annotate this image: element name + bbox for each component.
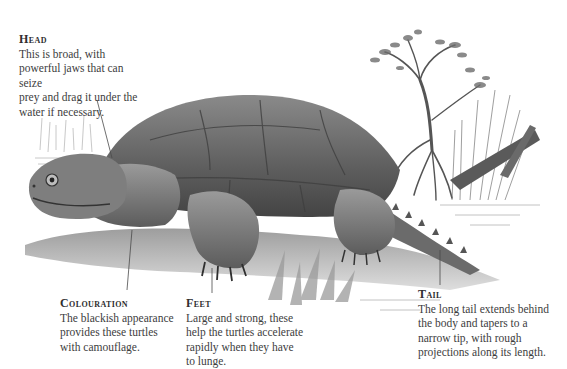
callout-head-line: powerful jaws that can seize [19, 61, 149, 90]
callout-feet-line: Large and strong, these [186, 311, 316, 326]
callout-tail-line: narrow tip, with rough [418, 331, 567, 346]
callout-tail-line: the body and tapers to a [418, 316, 567, 331]
callout-tail-line: projections along its length. [418, 345, 567, 360]
callout-feet-line: rapidly when they have [186, 340, 316, 355]
callout-tail-line: The long tail extends behind [418, 302, 567, 317]
callout-colouration-line: with camouflage. [60, 340, 190, 355]
callout-colouration: Colouration The blackish appearance prov… [60, 296, 190, 354]
callout-head: Head This is broad, with powerful jaws t… [19, 32, 149, 120]
callout-colouration-heading: Colouration [60, 296, 190, 311]
callout-head-line: prey and drag it under the [19, 90, 149, 105]
callout-tail-heading: Tail [418, 287, 567, 302]
mangrove-leaves [370, 30, 490, 89]
callout-colouration-line: The blackish appearance [60, 311, 190, 326]
callout-feet-line: help the turtles accelerate [186, 325, 316, 340]
callout-head-heading: Head [19, 32, 149, 47]
callout-feet-heading: Feet [186, 296, 316, 311]
callout-head-line: This is broad, with [19, 47, 149, 62]
callout-colouration-line: provides these turtles [60, 325, 190, 340]
callout-feet-line: to lunge. [186, 354, 316, 369]
callout-tail: Tail The long tail extends behind the bo… [418, 287, 567, 360]
callout-head-line: water if necessary. [19, 105, 149, 120]
callout-feet: Feet Large and strong, these help the tu… [186, 296, 316, 369]
